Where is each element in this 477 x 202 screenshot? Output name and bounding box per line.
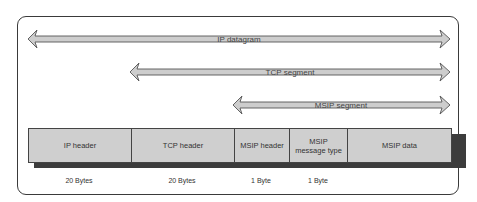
size-ip-header: 20 Bytes [65,177,92,184]
field-msip-header: MSIP header [235,129,290,162]
msip-segment-label: MSIP segment [315,101,367,110]
tcp-segment-label: TCP segment [266,68,315,77]
field-label: TCP header [163,141,203,150]
size-tcp-header: 20 Bytes [168,177,195,184]
packet-fields: IP header TCP header MSIP header MSIP me… [28,128,452,163]
field-msip-message-type: MSIP message type [290,129,348,162]
size-msip-message-type: 1 Byte [308,177,328,184]
size-msip-header: 1 Byte [251,177,271,184]
field-label: MSIP data [382,141,417,150]
field-tcp-header: TCP header [132,129,235,162]
field-msip-data: MSIP data [348,129,451,162]
field-ip-header: IP header [29,129,132,162]
field-label: MSIP header [240,141,284,150]
field-label: IP header [64,141,96,150]
ip-datagram-label: IP datagram [217,35,260,44]
arrows-layer [0,0,477,202]
field-label: MSIP message type [294,137,343,155]
